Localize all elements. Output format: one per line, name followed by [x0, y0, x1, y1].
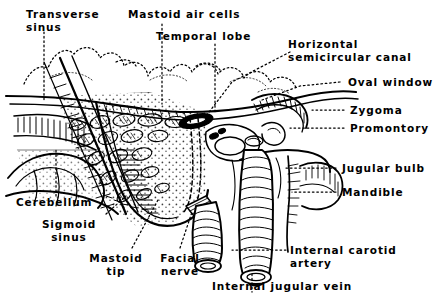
- label-horizontal-semicircular-canal: Horizontal semicircular canal: [288, 38, 412, 63]
- label-cerebellum: Cerebellum: [16, 196, 92, 209]
- label-zygoma: Zygoma: [350, 104, 403, 117]
- label-internal-jugular-vein: Internal jugular vein: [212, 280, 352, 293]
- leader-sigmoid-sinus: [106, 196, 126, 214]
- label-oval-window: Oval window: [348, 76, 433, 89]
- label-facial-nerve: Facial nerve: [148, 252, 212, 277]
- label-mastoid-air-cells: Mastoid air cells: [128, 8, 240, 21]
- label-internal-carotid-artery: Internal carotid artery: [290, 244, 397, 269]
- label-mandible: Mandible: [342, 186, 404, 199]
- label-temporal-lobe: Temporal lobe: [156, 30, 251, 43]
- label-mastoid-tip: Mastoid tip: [84, 252, 148, 277]
- label-jugular-bulb: Jugular bulb: [342, 162, 425, 175]
- label-promontory: Promontory: [350, 122, 429, 135]
- leader-oval-window: [262, 82, 340, 100]
- label-sigmoid-sinus: Sigmoid sinus: [32, 218, 106, 243]
- leader-horizontal-semicircular-canal: [206, 52, 290, 116]
- leader-facial-nerve: [180, 212, 192, 248]
- label-transverse-sinus: Transverse sinus: [26, 8, 100, 33]
- leader-mastoid-tip: [132, 200, 158, 248]
